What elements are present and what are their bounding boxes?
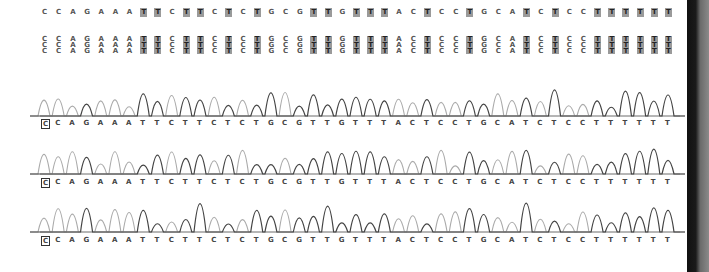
base-call-label: C [566, 119, 571, 127]
consensus-base: C [452, 8, 459, 17]
selected-base-cursor[interactable]: C [41, 236, 50, 246]
chromatogram-trace-2[interactable]: CCAGAAATTCTTCTCTGCGTTGTTTACTCCTGCATCTCCT… [0, 128, 685, 190]
consensus-base: C [410, 8, 417, 17]
base-call-label: T [381, 119, 386, 127]
base-call-label: C [211, 119, 216, 127]
alignment-column: G G G [84, 36, 91, 54]
base-call-label: G [84, 119, 90, 127]
consensus-base: G [296, 8, 303, 17]
base-call-label: G [339, 236, 345, 244]
consensus-base: T [424, 8, 431, 17]
alignment-column: A A A [126, 36, 133, 54]
alignment-column: C C C [495, 36, 502, 54]
alignment-column: T T T [325, 36, 332, 54]
base-call-label: C [537, 119, 542, 127]
consensus-base: T [608, 8, 615, 17]
base-call-label: T [197, 119, 202, 127]
alignment-column: T T T [608, 36, 615, 54]
base-call-label: C [55, 236, 60, 244]
base-call-label: T [552, 119, 557, 127]
chromatogram-trace-3[interactable]: CCAGAAATTCTTCTCTGCGTTGTTTACTCCTGCATCTCCT… [0, 184, 685, 250]
consensus-base: C [240, 8, 247, 17]
base-call-label: T [608, 119, 613, 127]
alignment-column: T T T [254, 36, 261, 54]
base-call-label: T [637, 236, 642, 244]
chromatogram-trace-1[interactable]: CCAGAAATTCTTCTCTGCGTTGTTTACTCCTGCATCTCCT… [0, 68, 685, 130]
alignment-column: T T T [651, 36, 658, 54]
base-call-label: T [381, 236, 386, 244]
consensus-base: T [197, 8, 204, 17]
base-call-label: T [651, 119, 656, 127]
base-call-label: A [509, 236, 514, 244]
consensus-base: A [126, 8, 133, 17]
alignment-column: C C C [452, 36, 459, 54]
alignment-column: A A A [112, 36, 119, 54]
alignment-column: C C C [410, 36, 417, 54]
base-call-label: T [622, 119, 627, 127]
consensus-base: T [154, 8, 161, 17]
alignment-column: A A A [69, 36, 76, 54]
consensus-base: T [353, 8, 360, 17]
alignment-column: T T T [310, 36, 317, 54]
base-call-label: T [183, 236, 188, 244]
base-call-label: T [225, 119, 230, 127]
consensus-base: T [622, 8, 629, 17]
base-call-label: T [140, 236, 145, 244]
consensus-base: G [268, 8, 275, 17]
alignment-column: T T T [637, 36, 644, 54]
base-call-label: T [665, 119, 670, 127]
consensus-base: T [325, 8, 332, 17]
consensus-base: T [466, 8, 473, 17]
consensus-base: G [84, 8, 91, 17]
base-call-label: T [367, 236, 372, 244]
base-call-label: T [154, 119, 159, 127]
base-call-label: T [466, 119, 471, 127]
scrollbar[interactable] [687, 0, 709, 272]
alignment-column: A A A [509, 36, 516, 54]
alignment-column: G G G [268, 36, 275, 54]
alignment-column: C C C [438, 36, 445, 54]
base-call-label: C [169, 236, 174, 244]
consensus-base: T [637, 8, 644, 17]
alignment-column: T T T [140, 36, 147, 54]
base-call-label: C [495, 236, 500, 244]
base-call-label: T [594, 119, 599, 127]
base-call-label: T [353, 236, 358, 244]
base-call-label: C [452, 119, 457, 127]
base-call-label: C [169, 119, 174, 127]
alignment-column: C C C [211, 36, 218, 54]
base-call-label: A [396, 236, 401, 244]
base-call-label: C [410, 119, 415, 127]
consensus-base: C [282, 8, 289, 17]
consensus-base: T [651, 8, 658, 17]
base-call-label: T [225, 236, 230, 244]
base-call-label: C [580, 236, 585, 244]
base-call-label: T [367, 119, 372, 127]
consensus-base: T [310, 8, 317, 17]
alignment-column: C C C [282, 36, 289, 54]
base-call-label: T [552, 236, 557, 244]
base-call-label: G [296, 236, 302, 244]
alignment-column: C C C [41, 36, 48, 54]
base-call-label: C [566, 236, 571, 244]
base-call-label: A [509, 119, 514, 127]
consensus-base: G [481, 8, 488, 17]
base-call-label: A [112, 236, 117, 244]
alignment-column: T T T [622, 36, 629, 54]
base-call-label: C [580, 119, 585, 127]
base-call-label: T [197, 236, 202, 244]
alignment-column: G G G [296, 36, 303, 54]
consensus-base: T [140, 8, 147, 17]
consensus-base: C [438, 8, 445, 17]
base-call-label: G [481, 119, 487, 127]
base-call-label: G [84, 236, 90, 244]
base-call-label: A [69, 236, 74, 244]
base-call-label: T [594, 236, 599, 244]
alignment-column: T T T [594, 36, 601, 54]
base-call-label: T [622, 236, 627, 244]
base-call-label: T [325, 236, 330, 244]
alignment-column: T T T [466, 36, 473, 54]
base-call-label: C [410, 236, 415, 244]
consensus-base: A [396, 8, 403, 17]
base-call-label: A [112, 119, 117, 127]
